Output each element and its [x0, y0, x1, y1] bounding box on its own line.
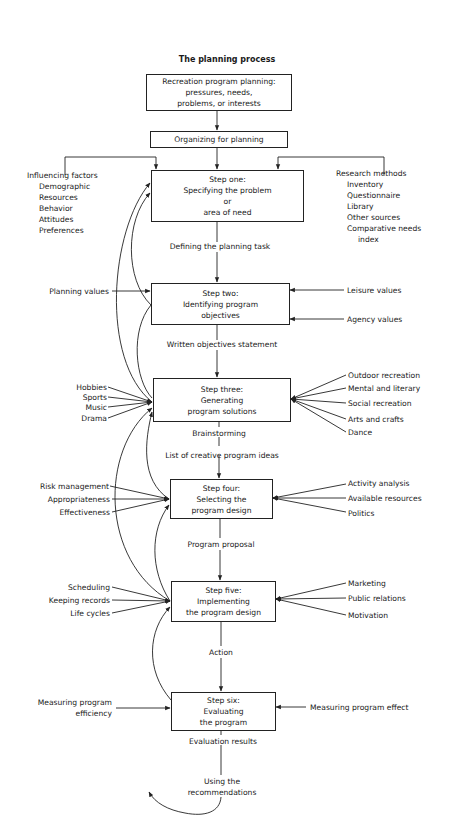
input-arts-crafts: Arts and crafts	[348, 414, 404, 425]
box-line: the program	[200, 717, 247, 728]
connector-label-program-proposal: Program proposal	[187, 539, 254, 550]
research-methods-list: Research methods Inventory Questionnaire…	[336, 168, 421, 245]
box-line: area of need	[203, 207, 251, 218]
diagram-title: The planning process	[179, 55, 275, 64]
input-dance: Dance	[348, 427, 372, 438]
box-line: Recreation program planning:	[162, 76, 275, 87]
list-item: Preferences	[27, 225, 98, 236]
box-line: pressures, needs,	[186, 87, 253, 98]
input-activity-analysis: Activity analysis	[348, 478, 410, 489]
input-social-recreation: Social recreation	[348, 398, 412, 409]
box-line: Selecting the	[196, 494, 246, 505]
input-measuring-effect: Measuring program effect	[310, 702, 408, 713]
input-public-relations: Public relations	[348, 593, 406, 604]
list-item: Other sources	[336, 212, 421, 223]
box-line: Step four:	[203, 483, 240, 494]
connector-label-defining: Defining the planning task	[170, 241, 271, 252]
input-drama: Drama	[81, 413, 107, 424]
input-motivation: Motivation	[348, 610, 388, 621]
box-line: Specifying the problem	[183, 185, 271, 196]
connector-label-evaluation-results: Evaluation results	[189, 736, 257, 747]
connector-label-brainstorming: Brainstorming	[192, 428, 246, 439]
box-line: Evaluating	[203, 706, 243, 717]
label-line: recommendations	[188, 787, 257, 798]
input-marketing: Marketing	[348, 578, 386, 589]
list-item: Attitudes	[27, 214, 98, 225]
connector-label-written-objectives: Written objectives statement	[167, 339, 277, 350]
box-step-one: Step one: Specifying the problem or area…	[151, 170, 304, 222]
box-line: program solutions	[188, 406, 257, 417]
box-step-six: Step six: Evaluating the program	[171, 692, 276, 731]
input-agency-values: Agency values	[347, 314, 402, 325]
box-line: Organizing for planning	[174, 134, 263, 145]
list-item: Library	[336, 201, 421, 212]
input-outdoor-recreation: Outdoor recreation	[348, 370, 420, 381]
connector-label-idea-list: List of creative program ideas	[165, 450, 279, 461]
list-item: index	[336, 234, 421, 245]
input-planning-values: Planning values	[49, 286, 109, 297]
input-life-cycles: Life cycles	[70, 608, 110, 619]
list-item: Questionnaire	[336, 190, 421, 201]
list-item: Behavior	[27, 203, 98, 214]
list-heading: Research methods	[336, 168, 421, 179]
input-scheduling: Scheduling	[68, 582, 110, 593]
box-step-three: Step three: Generating program solutions	[153, 378, 291, 422]
box-line: or	[224, 196, 232, 207]
box-line: program design	[191, 505, 251, 516]
input-available-resources: Available resources	[348, 493, 422, 504]
box-line: Step six:	[207, 695, 240, 706]
input-music: Music	[85, 402, 107, 413]
input-effectiveness: Effectiveness	[59, 507, 110, 518]
box-line: objectives	[201, 310, 240, 321]
input-appropriateness: Appropriateness	[48, 494, 110, 505]
box-line: Step two:	[202, 288, 238, 299]
box-start: Recreation program planning: pressures, …	[146, 74, 292, 111]
connector-label-action: Action	[209, 647, 233, 658]
input-politics: Politics	[348, 508, 374, 519]
box-line: Step three:	[201, 384, 243, 395]
label-line: efficiency	[38, 708, 112, 719]
influencing-factors-list: Influencing factors Demographic Resource…	[27, 170, 98, 236]
box-line: Generating	[201, 395, 244, 406]
list-item: Resources	[27, 192, 98, 203]
box-line: Step one:	[209, 174, 245, 185]
label-line: Measuring program	[38, 697, 112, 708]
box-step-five: Step five: Implementing the program desi…	[171, 581, 276, 622]
list-item: Comparative needs	[336, 223, 421, 234]
box-step-four: Step four: Selecting the program design	[170, 479, 273, 519]
box-line: Implementing	[197, 596, 250, 607]
input-risk-management: Risk management	[40, 481, 109, 492]
box-line: problems, or interests	[177, 98, 260, 109]
list-heading: Influencing factors	[27, 170, 98, 181]
list-item: Demographic	[27, 181, 98, 192]
box-line: the program design	[186, 607, 261, 618]
box-line: Step five:	[205, 585, 241, 596]
planning-process-diagram: The planning process Recreation program …	[0, 0, 454, 823]
list-item: Inventory	[336, 179, 421, 190]
input-keeping-records: Keeping records	[49, 595, 110, 606]
connector-label-using-recommendations: Using the recommendations	[188, 776, 257, 798]
box-line: Identifying program	[183, 299, 258, 310]
input-mental-literary: Mental and literary	[348, 383, 420, 394]
input-measuring-efficiency: Measuring program efficiency	[38, 697, 112, 719]
box-organizing: Organizing for planning	[150, 131, 288, 148]
input-leisure-values: Leisure values	[347, 285, 401, 296]
box-step-two: Step two: Identifying program objectives	[151, 283, 290, 325]
label-line: Using the	[188, 776, 257, 787]
